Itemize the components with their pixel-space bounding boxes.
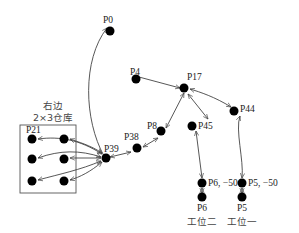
node-p6-50: [198, 179, 207, 188]
node-label-p0: P0: [103, 15, 113, 25]
warehouse-slot-5: [28, 177, 37, 186]
node-label-p8: P8: [147, 121, 157, 131]
edge-p45-p6-50: [196, 131, 202, 178]
path-network-diagram: 右边 2×3仓库 P21: [0, 0, 299, 233]
edge-p39-w5: [38, 161, 101, 180]
node-p45: [188, 122, 197, 131]
warehouse-subtitle: 2×3仓库: [33, 112, 73, 123]
node-p6: [198, 193, 207, 202]
node-label-p38: P38: [124, 132, 139, 142]
edge-p8-p38: [143, 138, 158, 147]
warehouse-slot-1: [28, 135, 37, 144]
warehouse-title: 右边: [43, 100, 63, 111]
node-label-p45: P45: [198, 121, 213, 131]
node-label-p21: P21: [26, 125, 41, 135]
node-label-p39: P39: [104, 144, 119, 154]
edge-p39-p0: [89, 28, 107, 156]
edge-p17-p45: [188, 94, 208, 119]
node-labels: P0 P4 P17 P8 P45 P44 P38 P39 P6, −50 P5,…: [103, 15, 278, 227]
node-p17: [180, 84, 189, 93]
node-label-p5-50: P5, −50: [248, 178, 278, 188]
station-label-2: 工位二: [187, 216, 217, 227]
node-label-p17: P17: [187, 72, 202, 82]
node-label-p5: P5: [237, 203, 247, 213]
node-p5: [238, 193, 247, 202]
node-label-p4: P4: [130, 67, 140, 77]
station-label-1: 工位一: [227, 216, 257, 227]
edge-p39-w6: [70, 162, 102, 180]
node-label-p44: P44: [240, 104, 255, 114]
edge-p39-w3: [38, 152, 101, 158]
node-p8: [157, 127, 166, 136]
node-p5-50: [238, 179, 247, 188]
edge-p4-p17: [139, 77, 180, 88]
node-p44: [230, 107, 239, 116]
warehouse-slot-2: [60, 135, 69, 144]
warehouse-slot-4: [60, 155, 69, 164]
node-p38: [133, 144, 142, 153]
node-p0: [106, 27, 115, 36]
node-label-p6: P6: [197, 203, 207, 213]
edges: [38, 28, 242, 193]
node-p39: [102, 154, 111, 163]
edge-p17-p8: [166, 93, 184, 128]
node-label-p6-50: P6, −50: [208, 178, 238, 188]
warehouse-slot-3: [28, 155, 37, 164]
edge-p44-p5-50: [238, 116, 242, 178]
warehouse-slot-6: [60, 177, 69, 186]
